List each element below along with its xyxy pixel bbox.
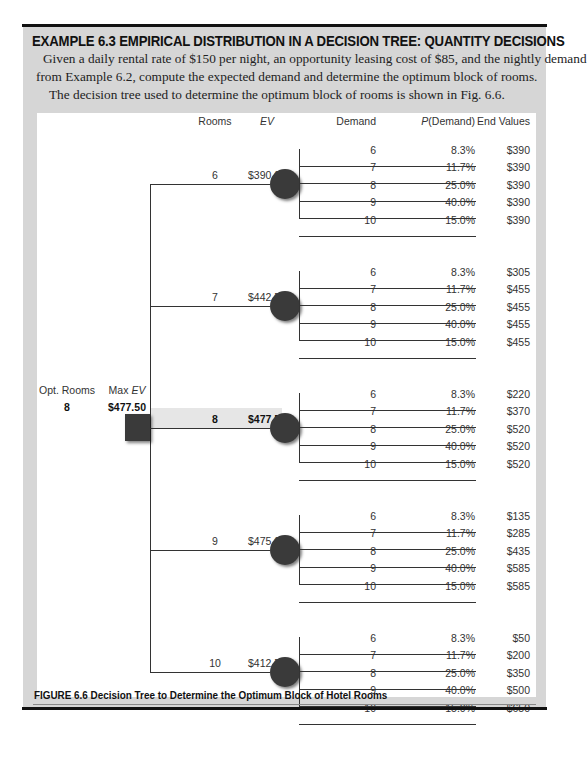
- outcome-demand: 7: [320, 405, 376, 417]
- outcome-demand: 10: [320, 458, 376, 470]
- max-ev-value: $477.50: [102, 401, 152, 413]
- outcome-line: [299, 236, 476, 237]
- branch-rooms: 8: [190, 413, 240, 425]
- decision-node-square: [125, 414, 150, 441]
- outcome-end-value: $520: [470, 440, 530, 452]
- outcome-probability: 25.0%: [405, 179, 475, 191]
- outcome-probability: 40.0%: [405, 684, 475, 696]
- header-ev: EV: [252, 115, 282, 127]
- branch-rooms: 9: [190, 535, 240, 547]
- branch-line: [150, 184, 270, 185]
- outcome-end-value: $455: [470, 336, 530, 348]
- outcome-probability: 25.0%: [405, 423, 475, 435]
- outcome-probability: 8.3%: [405, 144, 475, 156]
- outcome-end-value: $220: [470, 388, 530, 400]
- outcome-demand: 10: [320, 214, 376, 226]
- outcome-demand: 6: [320, 510, 376, 522]
- outcome-demand: 8: [320, 667, 376, 679]
- branch-line: [150, 672, 270, 673]
- branch-line: [150, 428, 270, 429]
- paragraph-line-1: Given a daily rental rate of $150 per ni…: [43, 51, 587, 67]
- outcome-demand: 10: [320, 336, 376, 348]
- header-end-values: End Values: [470, 115, 530, 127]
- outcome-probability: 11.7%: [405, 283, 475, 295]
- header-p-demand: P(Demand): [405, 115, 475, 127]
- outcome-end-value: $455: [470, 283, 530, 295]
- outcome-demand: 9: [320, 562, 376, 574]
- outcome-end-value: $370: [470, 405, 530, 417]
- outcome-probability: 40.0%: [405, 440, 475, 452]
- chance-node-circle: [270, 535, 300, 565]
- outcome-end-value: $455: [470, 301, 530, 313]
- outcome-demand: 8: [320, 423, 376, 435]
- outcome-end-value: $350: [470, 667, 530, 679]
- bottom-rule: [22, 707, 547, 710]
- outcome-demand: 6: [320, 144, 376, 156]
- outcome-end-value: $585: [470, 580, 530, 592]
- outcome-end-value: $50: [470, 632, 530, 644]
- chance-node-circle: [270, 657, 300, 687]
- max-ev-italic: EV: [131, 384, 145, 396]
- branch-rooms: 7: [190, 291, 240, 303]
- outcome-end-value: $390: [470, 179, 530, 191]
- outcome-probability: 8.3%: [405, 510, 475, 522]
- outcome-probability: 15.0%: [405, 580, 475, 592]
- opt-rooms-label: Opt. Rooms: [38, 384, 96, 396]
- outcome-end-value: $435: [470, 545, 530, 557]
- outcome-probability: 8.3%: [405, 632, 475, 644]
- top-rule: [22, 24, 547, 27]
- outcome-probability: 11.7%: [405, 649, 475, 661]
- outcome-demand: 7: [320, 283, 376, 295]
- outcome-probability: 40.0%: [405, 562, 475, 574]
- outcome-end-value: $285: [470, 527, 530, 539]
- outcome-probability: 8.3%: [405, 388, 475, 400]
- outcome-end-value: $200: [470, 649, 530, 661]
- outcome-demand: 7: [320, 649, 376, 661]
- paragraph-line-2: from Example 6.2, compute the expected d…: [36, 69, 537, 85]
- outcome-demand: 9: [320, 318, 376, 330]
- outcome-demand: 6: [320, 388, 376, 400]
- outcome-probability: 15.0%: [405, 214, 475, 226]
- outcome-probability: 11.7%: [405, 161, 475, 173]
- branch-rooms: 6: [190, 169, 240, 181]
- branch-line: [150, 550, 270, 551]
- chance-node-circle: [270, 169, 300, 199]
- outcome-end-value: $455: [470, 318, 530, 330]
- example-title: EXAMPLE 6.3 EMPIRICAL DISTRIBUTION IN A …: [32, 33, 565, 49]
- caption-rule: [33, 704, 536, 705]
- outcome-probability: 8.3%: [405, 266, 475, 278]
- outcome-probability: 11.7%: [405, 405, 475, 417]
- opt-rooms-value: 8: [52, 401, 82, 413]
- outcome-probability: 40.0%: [405, 196, 475, 208]
- branch-rooms: 10: [190, 657, 240, 669]
- outcome-end-value: $520: [470, 458, 530, 470]
- outcome-end-value: $305: [470, 266, 530, 278]
- header-demand: Demand: [320, 115, 376, 127]
- outcome-demand: 9: [320, 196, 376, 208]
- figure-caption: FIGURE 6.6 Decision Tree to Determine th…: [34, 689, 387, 701]
- max-ev-prefix: Max: [109, 384, 132, 396]
- outcome-demand: 7: [320, 161, 376, 173]
- outcome-end-value: $135: [470, 510, 530, 522]
- outcome-demand: 7: [320, 527, 376, 539]
- outcome-probability: 25.0%: [405, 301, 475, 313]
- outcome-probability: 15.0%: [405, 458, 475, 470]
- outcome-end-value: $390: [470, 144, 530, 156]
- max-ev-label: Max EV: [102, 384, 152, 396]
- outcome-demand: 6: [320, 632, 376, 644]
- chance-node-circle: [270, 413, 300, 443]
- outcome-probability: 11.7%: [405, 527, 475, 539]
- outcome-probability: 15.0%: [405, 336, 475, 348]
- paragraph-line-3: The decision tree used to determine the …: [49, 87, 505, 103]
- outcome-demand: 8: [320, 545, 376, 557]
- outcome-line: [299, 480, 476, 481]
- outcome-demand: 8: [320, 179, 376, 191]
- outcome-demand: 8: [320, 301, 376, 313]
- outcome-line: [299, 602, 476, 603]
- outcome-demand: 6: [320, 266, 376, 278]
- outcome-end-value: $390: [470, 161, 530, 173]
- outcome-line: [299, 358, 476, 359]
- outcome-probability: 25.0%: [405, 545, 475, 557]
- header-p-rest: (Demand): [428, 115, 475, 127]
- outcome-end-value: $390: [470, 214, 530, 226]
